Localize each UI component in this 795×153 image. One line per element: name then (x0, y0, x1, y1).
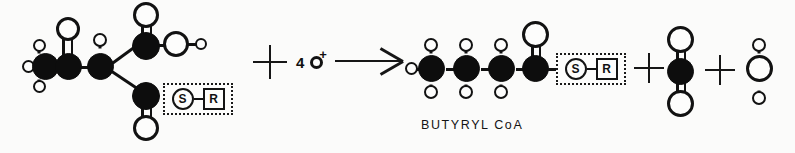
atom-hydrogen (424, 38, 438, 52)
r-label: R (602, 63, 611, 75)
atom-carbon (418, 55, 445, 82)
atom-hydrogen (494, 38, 508, 52)
atom-hydrogen (752, 38, 766, 52)
atom-oxygen (133, 2, 159, 28)
atom-carbon (87, 53, 114, 80)
reaction-diagram: S R 4 + (0, 0, 795, 153)
reaction-arrow-icon (335, 48, 403, 74)
atom-carbon (522, 55, 549, 82)
atom-oxygen (163, 31, 189, 57)
r-square-icon: R (203, 88, 225, 110)
plus-sign-1 (253, 45, 287, 79)
sulfur-circle-icon: S (565, 58, 587, 80)
atom-carbon (667, 58, 694, 85)
reagent-protons: 4 + (296, 51, 327, 73)
atom-oxygen (667, 26, 694, 53)
atom-carbon (488, 55, 515, 82)
sulfur-label: S (178, 93, 186, 105)
reagent-count: 4 (296, 55, 304, 70)
coa-group-product[interactable]: S R (556, 53, 626, 85)
charge-label: + (319, 47, 327, 62)
s-r-link-bond (587, 68, 596, 71)
atom-hydrogen (459, 38, 473, 52)
atom-hydrogen (459, 85, 473, 99)
atom-hydrogen (33, 80, 46, 93)
atom-hydrogen (494, 85, 508, 99)
r-square-icon: R (596, 58, 618, 80)
plus-sign-2 (634, 53, 664, 83)
atom-hydrogen (752, 91, 766, 105)
atom-hydrogen (33, 39, 46, 52)
atom-hydrogen (195, 38, 207, 50)
atom-oxygen (56, 17, 80, 41)
atom-oxygen (667, 90, 694, 117)
sulfur-circle-icon: S (172, 88, 194, 110)
coa-group-reactant[interactable]: S R (163, 83, 233, 115)
atom-carbon (132, 82, 160, 110)
atom-oxygen (746, 55, 773, 82)
atom-hydrogen (93, 33, 107, 47)
atom-carbon (453, 55, 480, 82)
plus-sign-3 (705, 55, 735, 85)
atom-oxygen (133, 115, 159, 141)
atom-carbon (132, 32, 160, 60)
r-label: R (209, 93, 218, 105)
atom-hydrogen (424, 85, 438, 99)
atom-oxygen (522, 21, 549, 48)
atom-carbon (55, 53, 82, 80)
atom-hydrogen (405, 62, 418, 75)
s-r-link-bond (194, 98, 203, 101)
butyryl-coa-caption: BUTYRYL CoA (421, 118, 523, 132)
sulfur-label: S (571, 63, 579, 75)
